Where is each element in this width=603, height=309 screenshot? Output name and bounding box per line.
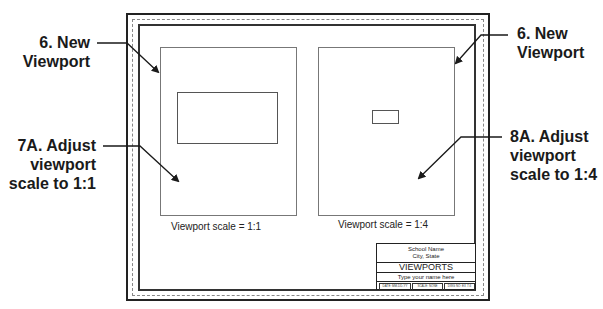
callout-line: 8A. Adjust <box>510 127 597 146</box>
callout-line: viewport <box>4 155 96 174</box>
callout-line: 6. New <box>517 24 584 43</box>
callout-line: 7A. Adjust <box>4 136 96 155</box>
leader-mid-left <box>103 146 178 181</box>
callout-new-viewport-right: 6. New Viewport <box>517 24 584 62</box>
callout-line: 6. New <box>8 33 90 52</box>
callout-adjust-scale-1-4: 8A. Adjust viewport scale to 1:4 <box>510 127 597 184</box>
callout-new-viewport-left: 6. New Viewport <box>8 33 90 71</box>
callout-line: Viewport <box>517 43 584 62</box>
callout-line: Viewport <box>8 52 90 71</box>
callout-adjust-scale-1-1: 7A. Adjust viewport scale to 1:1 <box>4 136 96 193</box>
callout-line: scale to 1:1 <box>4 174 96 193</box>
leader-top-left <box>97 43 158 72</box>
callout-line: viewport <box>510 146 597 165</box>
leader-top-right <box>456 35 508 63</box>
callout-line: scale to 1:4 <box>510 165 597 184</box>
leader-mid-right <box>419 137 502 178</box>
